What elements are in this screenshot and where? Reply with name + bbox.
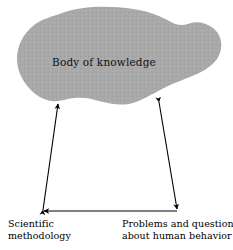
caption-scientific-methodology: Scientific methodology xyxy=(8,218,71,241)
blob-label: Body of knowledge xyxy=(0,56,208,68)
concept-diagram: Body of knowledge Scientific methodology… xyxy=(0,0,233,250)
diagram-canvas xyxy=(0,0,233,250)
caption-left-line-1: Scientific xyxy=(8,218,71,230)
left-connector-line xyxy=(43,104,58,210)
caption-problems-and-questions: Problems and questions about human behav… xyxy=(122,218,233,241)
caption-left-line-2: methodology xyxy=(8,230,71,242)
caption-right-line-1: Problems and questions xyxy=(122,218,233,230)
caption-right-line-2: about human behavior xyxy=(122,230,233,242)
right-connector-line xyxy=(159,102,177,209)
